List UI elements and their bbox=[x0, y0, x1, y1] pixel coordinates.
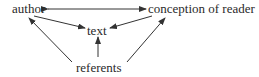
node-author: author bbox=[12, 2, 45, 16]
node-referents: referents bbox=[76, 61, 121, 75]
node-text: text bbox=[87, 24, 107, 38]
edge-referents-author bbox=[29, 18, 72, 62]
edge-reader-text bbox=[110, 16, 152, 28]
edge-referents-reader bbox=[127, 18, 165, 62]
node-conception-of-reader: conception of reader bbox=[148, 2, 255, 16]
edge-author-text bbox=[34, 16, 85, 28]
